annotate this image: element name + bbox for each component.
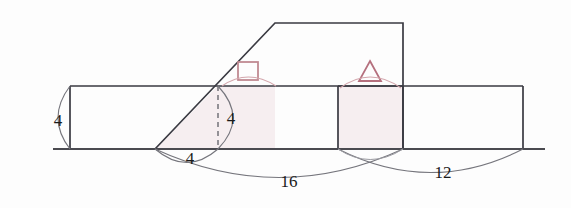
geometry-canvas: 4 4 4 16 12 <box>0 0 571 208</box>
label-left-height: 4 <box>54 111 63 130</box>
arc-right-span <box>338 149 523 173</box>
figure-outlines <box>70 23 523 149</box>
right-shaded-region <box>338 86 403 149</box>
label-inner-height: 4 <box>227 109 236 128</box>
square-marker-cap <box>222 77 276 86</box>
triangle-marker-cap-bottom <box>338 149 403 160</box>
dimension-arcs <box>58 86 523 178</box>
shaded-regions <box>155 86 403 149</box>
label-base-run: 4 <box>186 149 195 168</box>
label-total-span: 16 <box>281 172 298 191</box>
label-right-span: 12 <box>435 163 452 182</box>
left-shaded-region <box>155 86 275 149</box>
geometry-diagram: 4 4 4 16 12 <box>0 0 571 208</box>
